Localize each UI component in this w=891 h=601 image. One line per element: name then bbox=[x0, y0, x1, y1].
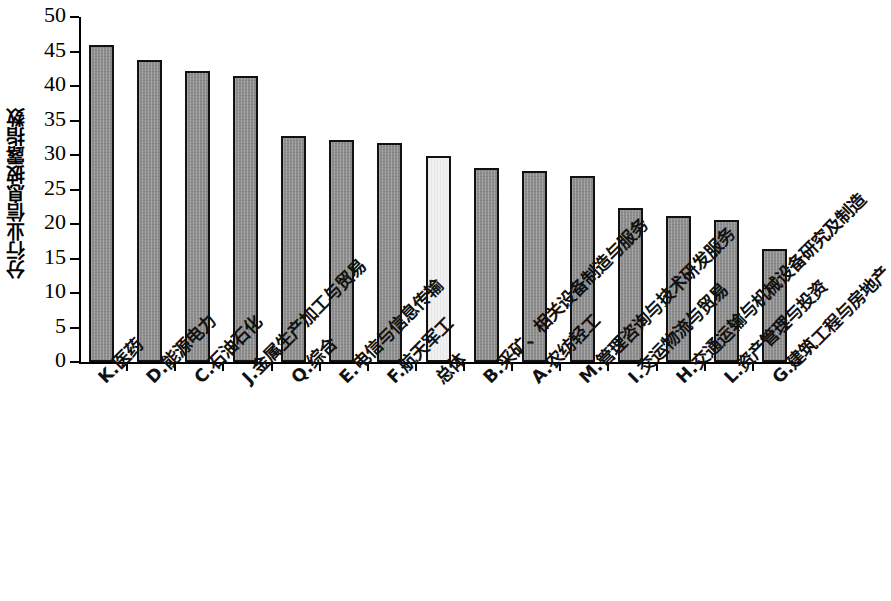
y-axis-line bbox=[79, 17, 81, 363]
y-tick-5: 5 bbox=[70, 327, 79, 329]
y-tick-label: 15 bbox=[26, 245, 66, 269]
bar bbox=[474, 168, 499, 362]
y-tick-label: 45 bbox=[26, 38, 66, 62]
y-tick-50: 50 bbox=[70, 16, 79, 18]
y-tick-label: 10 bbox=[26, 279, 66, 303]
y-tick-label: 5 bbox=[26, 314, 66, 338]
y-tick-label: 25 bbox=[26, 176, 66, 200]
y-tick-label: 35 bbox=[26, 107, 66, 131]
y-tick-label: 50 bbox=[26, 3, 66, 27]
y-tick-15: 15 bbox=[70, 258, 79, 260]
y-tick-0: 0 bbox=[70, 361, 79, 363]
y-tick-45: 45 bbox=[70, 51, 79, 53]
bar bbox=[329, 140, 354, 362]
y-tick-label: 20 bbox=[26, 210, 66, 234]
bar bbox=[89, 45, 114, 362]
y-tick-10: 10 bbox=[70, 292, 79, 294]
y-tick-label: 0 bbox=[26, 348, 66, 372]
y-tick-35: 35 bbox=[70, 120, 79, 122]
bar bbox=[137, 60, 162, 362]
y-tick-label: 40 bbox=[26, 72, 66, 96]
y-tick-20: 20 bbox=[70, 223, 79, 225]
y-tick-label: 30 bbox=[26, 141, 66, 165]
y-tick-25: 25 bbox=[70, 189, 79, 191]
y-tick-30: 30 bbox=[70, 154, 79, 156]
y-tick-40: 40 bbox=[70, 85, 79, 87]
